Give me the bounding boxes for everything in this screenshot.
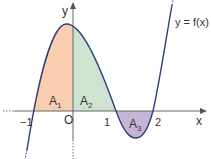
svg-text:A: A (80, 94, 88, 108)
function-area-diagram: y x O −1 1 2 y = f(x) A 1 A 2 A 3 (0, 0, 211, 159)
curve-dotted-extension-left (25, 150, 27, 159)
svg-text:1: 1 (57, 101, 62, 110)
function-label: y = f(x) (175, 16, 209, 28)
tick-label-2: 2 (155, 116, 161, 128)
diagram-canvas: y x O −1 1 2 y = f(x) A 1 A 2 A 3 (0, 0, 211, 159)
curve-dotted-extension-right (172, 0, 173, 5)
y-axis-arrow-icon (70, 2, 76, 9)
origin-label: O (64, 113, 73, 127)
svg-text:A: A (49, 94, 57, 108)
y-axis-label: y (62, 4, 68, 18)
svg-text:3: 3 (137, 124, 142, 133)
tick-label-neg1: −1 (20, 116, 33, 128)
svg-text:2: 2 (88, 101, 93, 110)
tick-label-1: 1 (104, 116, 110, 128)
x-axis-label: x (196, 114, 202, 128)
svg-text:A: A (129, 117, 137, 131)
